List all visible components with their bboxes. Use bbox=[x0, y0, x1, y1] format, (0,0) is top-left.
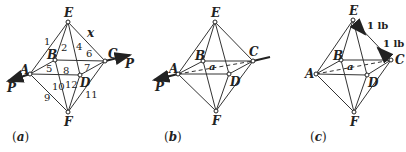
member-8 bbox=[30, 74, 80, 75]
node-label-F: F bbox=[63, 115, 74, 129]
panel-c: E A B C D F a 1 lb 1 lb (c) bbox=[304, 4, 405, 144]
member-label-a: a bbox=[209, 61, 215, 72]
node-label-F: F bbox=[349, 115, 360, 129]
member-number-9: 9 bbox=[44, 92, 50, 103]
force-label-right: P bbox=[124, 57, 135, 71]
node-label-A: A bbox=[304, 67, 314, 81]
panel-caption-b: (b) bbox=[164, 130, 182, 144]
joint-C bbox=[389, 58, 393, 62]
member-number-5: 5 bbox=[46, 63, 52, 74]
node-label-C: C bbox=[395, 53, 405, 67]
joint-C bbox=[103, 59, 107, 63]
joint-E bbox=[213, 20, 217, 24]
member-number-4: 4 bbox=[76, 41, 82, 52]
member-number-1: 1 bbox=[44, 36, 50, 47]
joint-F bbox=[214, 109, 218, 113]
load-label-E: 1 lb bbox=[367, 20, 388, 31]
joint-E bbox=[66, 20, 70, 24]
joint-E bbox=[351, 18, 355, 22]
node-label-C: C bbox=[249, 45, 259, 59]
member bbox=[178, 74, 216, 111]
member-number-10: 10 bbox=[52, 81, 65, 92]
joint-F bbox=[352, 110, 356, 114]
member-label-a: a bbox=[347, 61, 353, 72]
node-label-D: D bbox=[367, 76, 379, 90]
load-arrow-C bbox=[378, 48, 388, 58]
member-6 bbox=[55, 60, 105, 61]
force-label-left: P bbox=[6, 81, 17, 95]
joint-A bbox=[314, 72, 318, 76]
member bbox=[316, 74, 354, 112]
panel-caption-c: (c) bbox=[310, 130, 327, 144]
member-number-6: 6 bbox=[86, 48, 92, 59]
space-truss-figure: E A B C D F P P 1 2 4 x 5 6 7 8 9 10 11 … bbox=[0, 0, 406, 152]
node-label-D: D bbox=[229, 75, 241, 89]
member-number-11: 11 bbox=[85, 89, 98, 100]
force-label-left: P bbox=[154, 80, 165, 94]
member bbox=[216, 74, 229, 111]
node-label-B: B bbox=[332, 49, 343, 63]
node-label-B: B bbox=[46, 48, 57, 62]
node-label-E: E bbox=[210, 6, 221, 20]
load-label-C: 1 lb bbox=[383, 38, 404, 49]
member bbox=[316, 74, 367, 75]
node-label-E: E bbox=[63, 6, 74, 20]
joint-F bbox=[66, 110, 70, 114]
node-label-E: E bbox=[348, 4, 359, 18]
node-label-F: F bbox=[211, 114, 222, 128]
node-label-C: C bbox=[108, 47, 118, 61]
node-label-D: D bbox=[79, 76, 91, 90]
member bbox=[354, 75, 367, 112]
node-label-B: B bbox=[194, 49, 205, 63]
panel-caption-a: (a) bbox=[12, 130, 29, 144]
member-number-7: 7 bbox=[84, 62, 90, 73]
member-number-8: 8 bbox=[63, 65, 69, 76]
panel-a: E A B C D F P P 1 2 4 x 5 6 7 8 9 10 11 … bbox=[6, 6, 135, 144]
panel-b: E A B C D F P a (b) bbox=[154, 6, 270, 144]
node-label-A: A bbox=[168, 62, 178, 76]
node-label-A: A bbox=[19, 63, 29, 77]
member-label-x: x bbox=[86, 26, 95, 40]
member-number-2: 2 bbox=[61, 42, 67, 53]
member-number-12: 12 bbox=[65, 79, 78, 90]
joint-C bbox=[251, 59, 255, 63]
